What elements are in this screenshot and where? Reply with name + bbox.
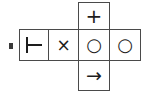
cell-left-arm	[19, 29, 49, 61]
cell-times: ×	[48, 29, 79, 61]
turnstile-bar	[26, 44, 42, 46]
times-symbol: ×	[56, 37, 70, 54]
cell-top-arm: +	[78, 2, 110, 30]
circle-symbol: ○	[117, 36, 133, 54]
turnstile-symbol	[26, 37, 42, 53]
cell-center: ○	[78, 29, 110, 61]
figure-label-marker	[9, 43, 13, 49]
cell-bottom-arm: →	[78, 60, 110, 91]
plus-symbol: +	[86, 6, 103, 26]
cell-right-arm: ○	[109, 29, 141, 61]
circle-symbol: ○	[86, 36, 102, 54]
cross-grid-figure: + × ○ ○ →	[0, 0, 148, 95]
arrow-right-symbol: →	[86, 66, 102, 85]
